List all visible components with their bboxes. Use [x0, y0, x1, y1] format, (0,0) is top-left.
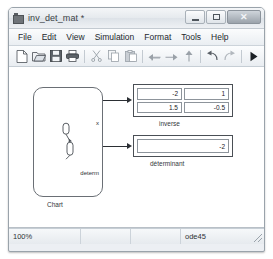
minimize-button[interactable] [185, 10, 205, 24]
toolbar-separator-1 [84, 50, 85, 63]
simulink-model-window: inv_det_mat * ✕ File Edit View Simulatio… [8, 7, 265, 252]
matrix-cell-r1c0: 1.5 [137, 102, 182, 114]
signal-arrow-determ [127, 143, 132, 149]
close-icon: ✕ [240, 13, 248, 22]
signal-wire-x[interactable] [103, 100, 128, 101]
paste-icon[interactable] [122, 48, 139, 65]
status-pane-2 [81, 229, 131, 244]
open-folder-icon[interactable] [30, 48, 47, 65]
chart-port-label-x: x [96, 120, 99, 126]
window-controls: ✕ [185, 10, 261, 24]
toolbar-separator-4 [241, 50, 242, 63]
menu-item-format[interactable]: Format [139, 29, 176, 45]
menu-item-file[interactable]: File [13, 29, 37, 45]
matrix-cell-r0c1: 1 [184, 88, 229, 100]
redo-icon[interactable] [221, 48, 238, 65]
menu-item-tools[interactable]: Tools [176, 29, 206, 45]
menu-item-simulation[interactable]: Simulation [90, 29, 140, 45]
save-disk-icon[interactable] [47, 48, 64, 65]
signal-arrow-x [127, 97, 132, 103]
simulink-model-icon [13, 13, 24, 24]
start-simulation-icon[interactable] [245, 48, 262, 65]
status-solver: ode45 [181, 229, 252, 244]
print-icon[interactable] [64, 48, 81, 65]
new-model-icon[interactable] [13, 48, 30, 65]
inverse-matrix-grid: -2 1 1.5 -0.5 [137, 88, 229, 113]
inverse-display-block[interactable]: -2 1 1.5 -0.5 [133, 84, 233, 117]
cut-scissors-icon[interactable] [88, 48, 105, 65]
window-title: inv_det_mat * [28, 13, 84, 23]
inverse-block-caption: inverse [159, 120, 180, 127]
determinant-block-caption: déterminant [150, 160, 184, 167]
stateflow-chart-block[interactable]: x determ [33, 87, 103, 197]
undo-icon[interactable] [204, 48, 221, 65]
back-arrow-icon[interactable] [146, 48, 163, 65]
chart-port-label-determ: determ [80, 170, 99, 176]
resize-grip[interactable] [252, 229, 264, 244]
chart-block-caption: Chart [47, 201, 63, 208]
copy-icon[interactable] [105, 48, 122, 65]
matrix-cell-r0c0: -2 [137, 88, 182, 100]
menu-item-view[interactable]: View [61, 29, 89, 45]
menu-item-help[interactable]: Help [206, 29, 233, 45]
menubar: File Edit View Simulation Format Tools H… [9, 29, 264, 46]
determinant-value: -2 [137, 139, 229, 153]
statusbar: 100% ode45 [9, 228, 264, 244]
signal-wire-determ[interactable] [103, 146, 128, 147]
close-button[interactable]: ✕ [227, 10, 261, 24]
status-zoom-level: 100% [9, 229, 81, 244]
maximize-icon [213, 14, 220, 20]
model-canvas[interactable]: x determ Chart -2 1 1.5 -0.5 inverse [9, 67, 264, 228]
toolbar-separator-2 [142, 50, 143, 63]
maximize-button[interactable] [206, 10, 226, 24]
stateflow-glyph-icon [57, 121, 79, 161]
titlebar: inv_det_mat * ✕ [9, 8, 264, 29]
up-arrow-icon[interactable] [180, 48, 197, 65]
toolbar [9, 46, 264, 67]
minimize-icon [192, 19, 199, 21]
status-pane-3 [131, 229, 181, 244]
menu-item-edit[interactable]: Edit [37, 29, 62, 45]
determinant-display-block[interactable]: -2 [133, 135, 233, 157]
toolbar-separator-3 [200, 50, 201, 63]
matrix-cell-r1c1: -0.5 [184, 102, 229, 114]
forward-arrow-icon[interactable] [163, 48, 180, 65]
